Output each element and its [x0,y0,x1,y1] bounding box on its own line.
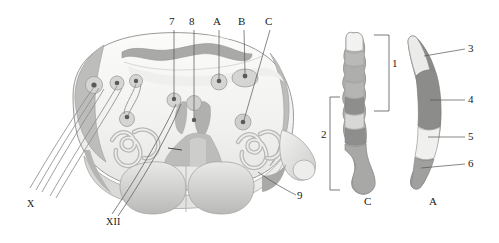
column-C-segment-2 [345,65,364,82]
label-X: X [27,198,34,209]
label-C-top: C [265,16,272,27]
label-8: 8 [189,16,195,27]
column-C-segment-7 [345,144,375,194]
nucleus-B-dot [243,74,248,79]
nucleus-left-2-dot [115,81,120,86]
nucleus-left-3-dot [134,79,138,83]
column-A-segment-4 [416,70,441,129]
label-5: 5 [468,131,474,142]
leader-line-3 [424,49,465,56]
left-pyramid [120,162,186,214]
bracket-1-graphic [374,35,389,111]
column-C-segment-5 [345,113,364,129]
anatomy-figure-root: 7 8 A B C 1 2 3 4 5 6 9 X XII C A [0,0,499,243]
label-4: 4 [468,94,474,105]
nucleus-column-C-graphic [330,32,389,194]
column-A-segment-5 [415,127,440,160]
label-3: 3 [468,43,474,54]
label-9: 9 [297,190,303,201]
right-peduncle-cut-face [293,160,315,180]
caption-A: A [429,196,437,207]
nucleus-column-A-graphic [408,36,465,189]
label-7: 7 [169,16,175,27]
right-pyramid [188,162,254,214]
bracket-1-label: 1 [392,58,398,69]
column-C-segment-3 [345,81,364,98]
label-A-top: A [213,16,221,27]
label-XII: XII [106,216,120,227]
column-C-segment-6 [345,128,366,145]
column-A-segment-6 [412,157,434,189]
column-C-segment-0 [346,32,363,51]
figure-canvas [0,0,499,243]
medulla-cross-section [30,30,316,216]
central-gray-inner [190,138,206,166]
column-C-segment-1 [345,51,364,66]
nucleus-C-dot [241,120,246,125]
label-6: 6 [468,158,474,169]
caption-C: C [364,196,371,207]
column-C-segment-4 [345,97,364,114]
label-B-top: B [238,16,245,27]
bracket-2-graphic [330,97,340,190]
bracket-2-label: 2 [321,129,327,140]
nucleus-left-1-dot [91,82,96,87]
